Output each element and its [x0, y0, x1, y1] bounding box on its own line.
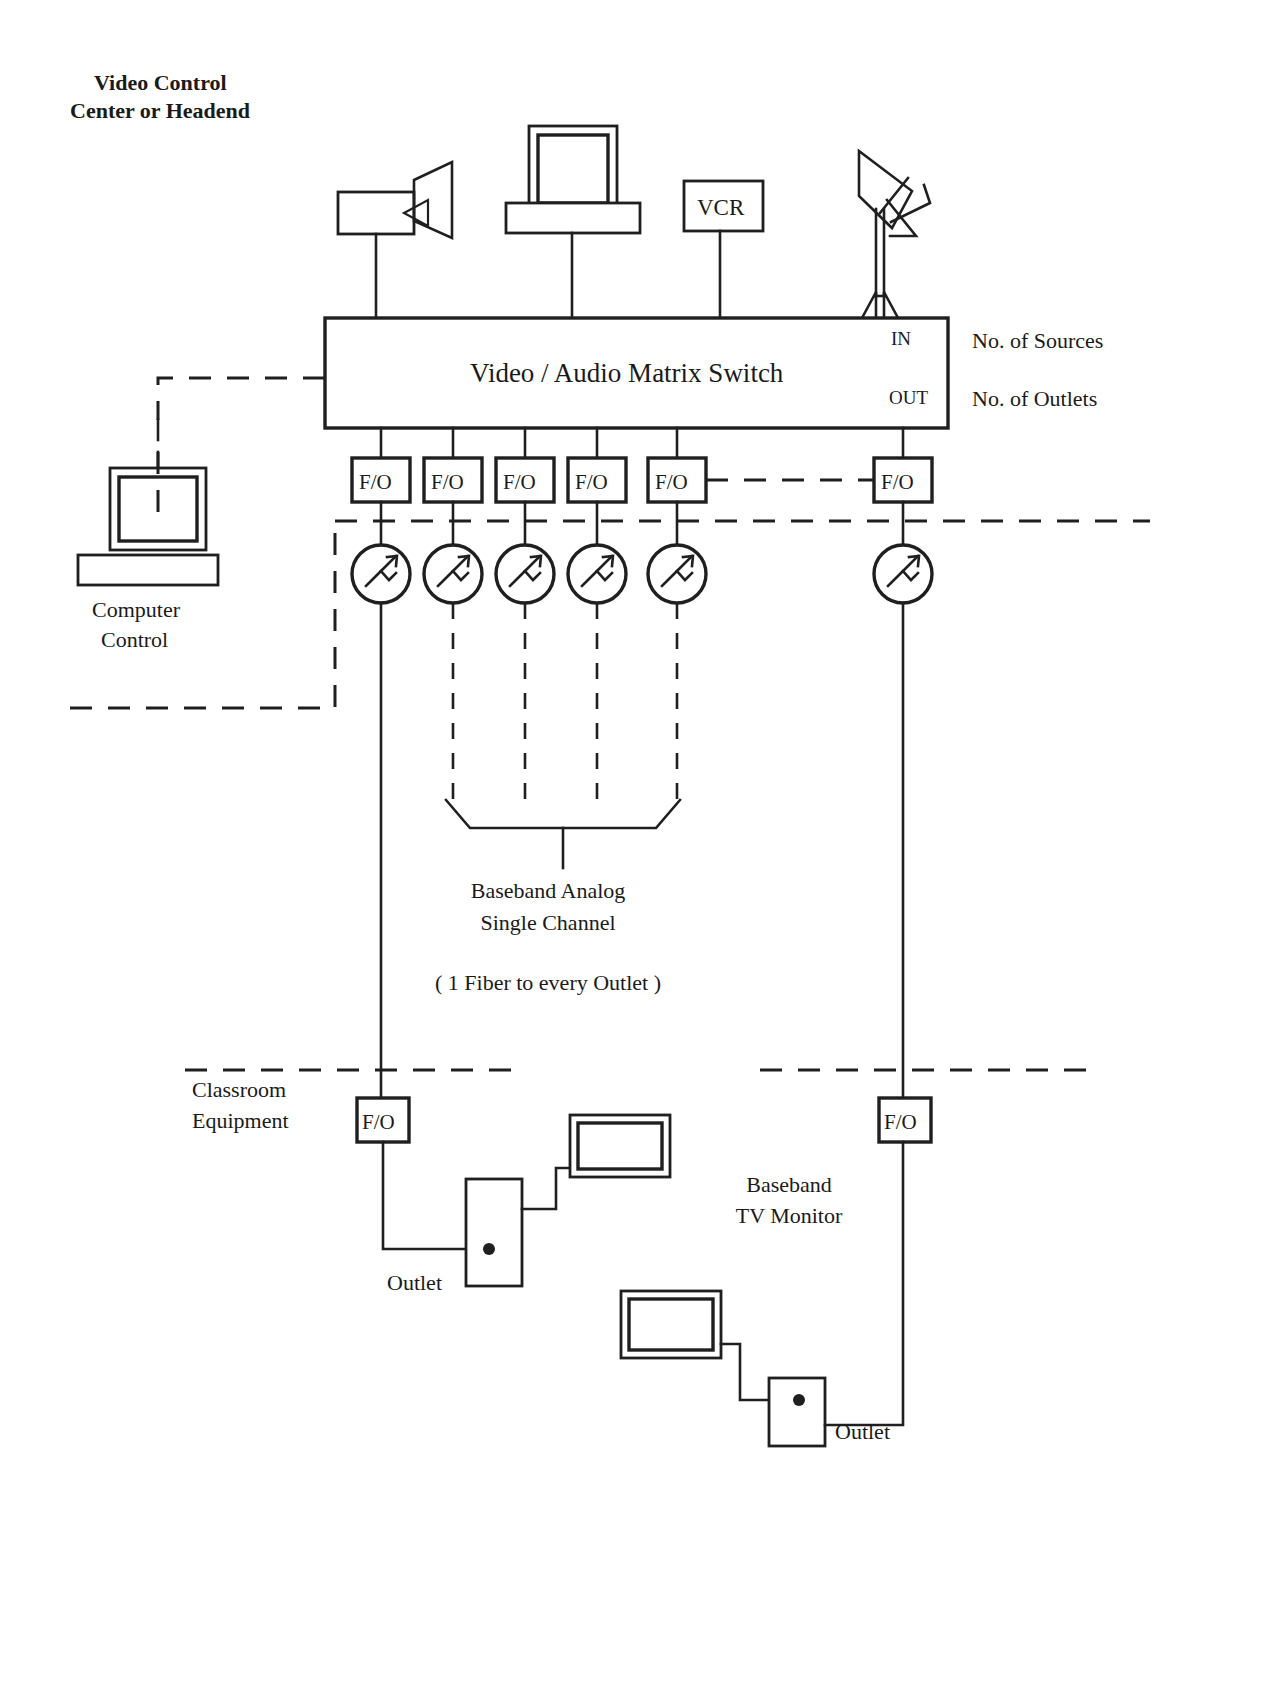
laser-transmitter-icon-6	[874, 545, 932, 603]
diagram-title-line1: Video Control	[94, 70, 227, 95]
tv-monitor-left-icon	[570, 1115, 670, 1177]
transmitter-drops	[381, 502, 903, 545]
vcr-icon: VCR	[684, 181, 763, 322]
laser-transmitter-icon-2	[424, 545, 482, 603]
fo-label: F/O	[575, 470, 608, 494]
bracket-label-line2: Single Channel	[480, 910, 615, 935]
fo-label: F/O	[881, 470, 914, 494]
outlet-left-to-monitor	[522, 1168, 570, 1209]
fo-label: F/O	[503, 470, 536, 494]
fo-unit-headend-6[interactable]: F/O	[874, 458, 932, 502]
camera-icon	[338, 162, 452, 322]
fo-unit-classroom-right[interactable]: F/O	[879, 1098, 931, 1142]
vcr-label: VCR	[697, 195, 745, 220]
video-distribution-diagram: Video Control Center or Headend VCR	[0, 0, 1272, 1684]
outlet-right-label: Outlet	[835, 1419, 890, 1444]
laser-transmitter-icon-3	[496, 545, 554, 603]
diagram-canvas: Video Control Center or Headend VCR	[0, 0, 1272, 1684]
diagram-title-line2: Center or Headend	[70, 98, 250, 123]
classroom-label-line1: Classroom	[192, 1077, 286, 1102]
computer-control-icon	[78, 420, 218, 585]
outlet-left-box[interactable]	[466, 1179, 522, 1286]
tv-monitor-right-icon	[621, 1291, 721, 1358]
monitor-right-to-outlet	[721, 1344, 769, 1400]
outlet-left-feed	[383, 1142, 466, 1249]
computer-control-label-line1: Computer	[92, 597, 181, 622]
matrix-switch-in-label: IN	[891, 328, 911, 349]
fo-label: F/O	[359, 470, 392, 494]
fo-label: F/O	[431, 470, 464, 494]
fo-label: F/O	[655, 470, 688, 494]
fo-unit-headend-5[interactable]: F/O	[648, 458, 706, 502]
bracket-label-line1: Baseband Analog	[471, 878, 626, 903]
outlet-right-box[interactable]	[769, 1378, 825, 1446]
computer-workstation-icon	[506, 126, 640, 322]
fo-label: F/O	[884, 1110, 917, 1134]
fiber-count-note: ( 1 Fiber to every Outlet )	[435, 970, 661, 995]
fo-unit-headend-3[interactable]: F/O	[496, 458, 554, 502]
laser-transmitter-icon-1	[352, 545, 410, 603]
baseband-monitor-label-line2: TV Monitor	[736, 1203, 843, 1228]
fo-unit-headend-4[interactable]: F/O	[568, 458, 626, 502]
matrix-switch-out-label: OUT	[889, 387, 928, 408]
video-audio-matrix-switch[interactable]: Video / Audio Matrix Switch IN OUT	[325, 318, 948, 428]
laser-transmitter-icon-4	[568, 545, 626, 603]
satellite-dish-icon	[859, 151, 930, 318]
baseband-monitor-label-line1: Baseband	[746, 1172, 832, 1197]
fo-label: F/O	[362, 1110, 395, 1134]
computer-control-label-line2: Control	[101, 627, 168, 652]
outlet-right-feed	[825, 1142, 903, 1425]
fo-unit-headend-1[interactable]: F/O	[352, 458, 410, 502]
baseband-bracket	[446, 800, 680, 868]
fo-unit-classroom-left[interactable]: F/O	[357, 1098, 409, 1142]
classroom-label-line2: Equipment	[192, 1108, 289, 1133]
headend-fo-drops	[381, 428, 903, 458]
laser-transmitter-icon-5	[648, 545, 706, 603]
annotation-number-of-sources: No. of Sources	[972, 328, 1103, 353]
matrix-switch-label: Video / Audio Matrix Switch	[470, 358, 784, 388]
outlet-left-label: Outlet	[387, 1270, 442, 1295]
annotation-number-of-outlets: No. of Outlets	[972, 386, 1097, 411]
control-link-upper	[158, 378, 325, 420]
fo-unit-headend-2[interactable]: F/O	[424, 458, 482, 502]
